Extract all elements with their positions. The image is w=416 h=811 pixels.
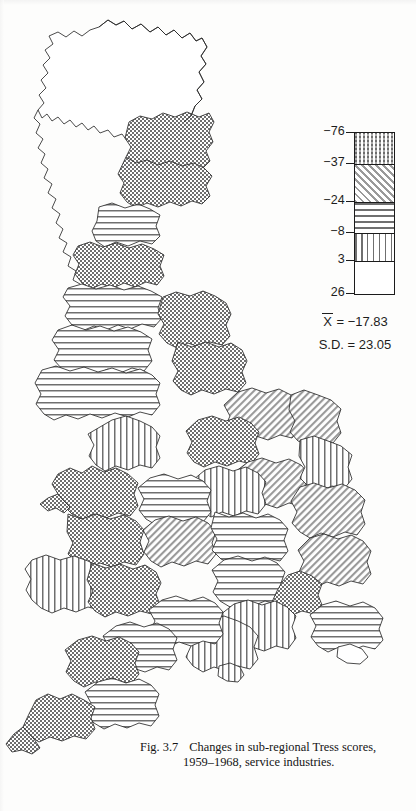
region-tayside bbox=[118, 157, 212, 208]
region-central-scotland bbox=[92, 203, 160, 247]
region-east-midlands bbox=[211, 512, 288, 564]
caption-line-1: Changes in sub-regional Tress scores, bbox=[189, 740, 376, 754]
legend-tick-3 bbox=[346, 232, 355, 233]
legend-box bbox=[354, 132, 395, 295]
legend-label-5: 26 bbox=[331, 285, 345, 299]
mean-value-text: = −17.83 bbox=[333, 314, 388, 329]
figure-caption: Fig. 3.7Changes in sub-regional Tress sc… bbox=[140, 740, 408, 770]
legend-label-1: −37 bbox=[323, 155, 345, 169]
mean-statistic: X = −17.83 bbox=[300, 310, 410, 333]
region-devon bbox=[65, 636, 139, 687]
figure-number: Fig. 3.7 bbox=[140, 740, 178, 754]
legend-tick-4 bbox=[346, 260, 355, 261]
legend-tick-0 bbox=[346, 132, 355, 133]
region-cornwall bbox=[23, 694, 95, 742]
legend-band-1 bbox=[355, 133, 394, 164]
legend-band-4 bbox=[355, 233, 394, 261]
region-west-coast-inlet-1 bbox=[34, 110, 80, 284]
region-durham bbox=[172, 342, 247, 395]
legend-tick-2 bbox=[346, 201, 355, 202]
map-svg bbox=[0, 0, 416, 760]
region-lincolnshire bbox=[299, 436, 352, 491]
mean-symbol: X bbox=[322, 313, 333, 329]
region-cumbria bbox=[52, 325, 152, 375]
sd-statistic: S.D. = 23.05 bbox=[300, 333, 410, 356]
legend-tick-1 bbox=[346, 163, 355, 164]
region-borders bbox=[63, 284, 162, 331]
region-cheshire bbox=[138, 474, 211, 525]
region-west-midlands bbox=[143, 516, 216, 567]
region-merseyside bbox=[88, 416, 160, 471]
legend-label-3: −8 bbox=[330, 224, 345, 238]
legend-band-2 bbox=[355, 164, 394, 202]
region-strathclyde bbox=[73, 242, 164, 289]
region-kent bbox=[310, 601, 383, 652]
region-south-devon bbox=[85, 678, 159, 729]
legend-tick-5 bbox=[346, 293, 355, 294]
legend-band-5 bbox=[355, 261, 394, 294]
legend-label-4: 3 bbox=[338, 252, 345, 266]
region-lancashire bbox=[35, 366, 160, 420]
region-east-anglia bbox=[291, 483, 365, 538]
legend-band-3 bbox=[355, 202, 394, 233]
caption-line-2: 1959–1968, service industries. bbox=[140, 755, 408, 770]
statistics-block: X = −17.83 S.D. = 23.05 bbox=[300, 310, 410, 356]
legend-label-2: −24 bbox=[323, 193, 345, 207]
figure-page: −76 −37 −24 −8 3 26 X = −17.83 S.D. = 23… bbox=[0, 0, 416, 811]
region-west-yorkshire bbox=[186, 416, 259, 467]
legend-label-0: −76 bbox=[323, 124, 345, 138]
region-kent-coast-blank bbox=[337, 644, 368, 664]
choropleth-map bbox=[0, 0, 416, 760]
legend-scale-labels: −76 −37 −24 −8 3 26 bbox=[305, 124, 355, 304]
region-northumberland bbox=[158, 291, 231, 348]
